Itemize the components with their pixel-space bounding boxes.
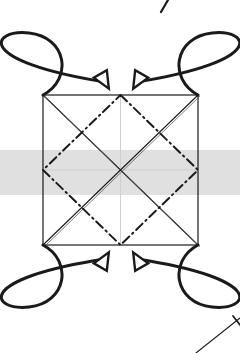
diagram-page: Scanned geometric diagram with square, i… — [0, 0, 240, 353]
stray-line-bottom-right — [196, 318, 240, 353]
arrow-top-right-head — [133, 70, 148, 88]
arrow-bottom-right-curve — [137, 245, 240, 307]
arrow-bottom-right-head — [133, 252, 148, 270]
arrow-top-left-curve — [1, 33, 105, 95]
geometric-figure — [0, 0, 240, 353]
arrow-bottom-left-curve — [1, 245, 105, 307]
arrow-top-left-head — [94, 70, 109, 88]
square-diagonals — [43, 95, 200, 246]
stray-marks-group — [161, 0, 240, 353]
stray-mark-top-right — [161, 0, 168, 12]
stray-line-bottom-right-tick — [233, 316, 240, 325]
arrow-bottom-left-head — [94, 252, 109, 270]
arrow-top-right-curve — [137, 33, 240, 95]
